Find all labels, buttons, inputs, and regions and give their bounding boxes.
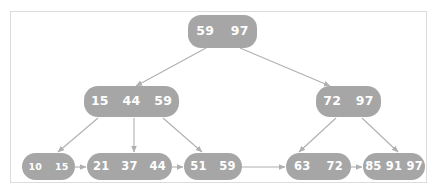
- edge-internal-right-to-leaf-4: [299, 118, 336, 152]
- node-root[interactable]: 59 97: [188, 15, 257, 48]
- node-key: 91: [386, 161, 402, 173]
- edge-internal-left-to-leaf-3: [163, 118, 202, 152]
- node-leaf-4[interactable]: 63 72: [286, 153, 351, 180]
- node-key: 21: [93, 161, 109, 173]
- node-leaf-3[interactable]: 51 59: [184, 153, 242, 180]
- node-key: 10: [28, 162, 42, 172]
- node-key: 72: [327, 161, 343, 173]
- node-key: 97: [406, 161, 422, 173]
- node-key: 59: [219, 161, 235, 173]
- edge-root-to-internal-left: [136, 48, 206, 86]
- node-key: 44: [150, 161, 166, 173]
- node-internal-right[interactable]: 72 97: [316, 86, 381, 117]
- node-key: 72: [323, 95, 341, 108]
- node-key: 15: [91, 95, 109, 108]
- node-key: 63: [294, 161, 310, 173]
- edge-root-to-internal-right: [240, 48, 330, 86]
- diagram-canvas: 59 97 15 44 59 72 97 10 15 21 37 44 51 5…: [0, 0, 437, 195]
- node-leaf-1[interactable]: 10 15: [22, 153, 75, 180]
- node-leaf-5[interactable]: 85 91 97: [363, 153, 425, 180]
- edge-internal-right-to-leaf-5: [362, 118, 398, 152]
- node-key: 85: [365, 161, 381, 173]
- node-key: 97: [356, 95, 374, 108]
- node-key: 44: [123, 95, 141, 108]
- node-key: 15: [55, 162, 69, 172]
- node-leaf-2[interactable]: 21 37 44: [87, 153, 172, 180]
- node-key: 97: [231, 25, 249, 38]
- node-key: 59: [196, 25, 214, 38]
- node-internal-left[interactable]: 15 44 59: [84, 86, 179, 117]
- edge-internal-left-to-leaf-1: [58, 118, 98, 152]
- node-key: 37: [121, 161, 137, 173]
- node-key: 59: [154, 95, 172, 108]
- node-key: 51: [190, 161, 206, 173]
